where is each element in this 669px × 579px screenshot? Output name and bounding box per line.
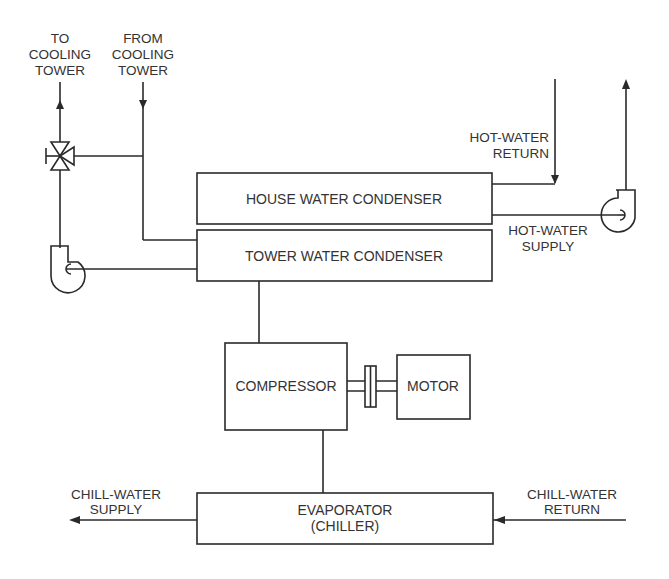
svg-text:TOWER: TOWER bbox=[35, 63, 85, 78]
svg-text:(CHILLER): (CHILLER) bbox=[311, 518, 379, 534]
svg-text:RETURN: RETURN bbox=[544, 502, 600, 517]
motor: MOTOR bbox=[397, 355, 470, 419]
svg-text:COOLING: COOLING bbox=[29, 47, 91, 62]
house-water-condenser: HOUSE WATER CONDENSER bbox=[197, 173, 492, 224]
down-arrow-icon bbox=[551, 175, 559, 184]
svg-text:SUPPLY: SUPPLY bbox=[522, 239, 574, 254]
svg-text:CHILL-WATER: CHILL-WATER bbox=[527, 487, 617, 502]
svg-text:TO: TO bbox=[51, 31, 70, 46]
svg-text:CHILL-WATER: CHILL-WATER bbox=[71, 487, 161, 502]
up-arrow-icon bbox=[56, 100, 64, 109]
svg-text:HOT-WATER: HOT-WATER bbox=[470, 130, 550, 145]
to-cooling-tower-label: TO COOLING TOWER bbox=[29, 31, 91, 78]
svg-text:FROM: FROM bbox=[123, 31, 163, 46]
left-arrow-icon bbox=[69, 516, 80, 524]
svg-text:TOWER WATER CONDENSER: TOWER WATER CONDENSER bbox=[245, 248, 443, 264]
svg-text:MOTOR: MOTOR bbox=[407, 378, 459, 394]
tower-water-pump-icon bbox=[51, 246, 197, 293]
svg-text:TOWER: TOWER bbox=[118, 63, 168, 78]
svg-text:HOUSE WATER CONDENSER: HOUSE WATER CONDENSER bbox=[246, 191, 442, 207]
shaft-coupling-icon bbox=[347, 366, 397, 407]
svg-text:EVAPORATOR: EVAPORATOR bbox=[298, 502, 393, 518]
three-way-valve-icon bbox=[46, 142, 74, 170]
up-arrow-icon bbox=[622, 79, 630, 89]
evaporator: EVAPORATOR (CHILLER) bbox=[197, 493, 493, 544]
svg-text:HOT-WATER: HOT-WATER bbox=[508, 223, 588, 238]
svg-text:SUPPLY: SUPPLY bbox=[90, 502, 142, 517]
hot-water-pump-icon bbox=[601, 79, 635, 232]
down-arrow-icon bbox=[139, 100, 147, 109]
svg-text:COMPRESSOR: COMPRESSOR bbox=[235, 378, 336, 394]
hot-water-return-label: HOT-WATER RETURN bbox=[470, 130, 550, 161]
chill-water-return-pipe bbox=[493, 516, 626, 524]
svg-text:COOLING: COOLING bbox=[112, 47, 174, 62]
chill-water-supply-pipe bbox=[69, 516, 197, 524]
chiller-schematic: TO COOLING TOWER FROM COOLING TOWER HOUS… bbox=[0, 0, 669, 579]
compressor: COMPRESSOR bbox=[225, 343, 347, 430]
from-cooling-tower-label: FROM COOLING TOWER bbox=[112, 31, 174, 78]
hot-water-supply-label: HOT-WATER SUPPLY bbox=[508, 223, 588, 254]
left-arrow-icon bbox=[494, 516, 505, 524]
tower-water-condenser: TOWER WATER CONDENSER bbox=[197, 230, 492, 281]
chill-water-return-label: CHILL-WATER RETURN bbox=[527, 487, 617, 517]
from-cooling-tower-pipe bbox=[139, 82, 197, 240]
svg-text:RETURN: RETURN bbox=[493, 146, 549, 161]
chill-water-supply-label: CHILL-WATER SUPPLY bbox=[71, 487, 161, 517]
